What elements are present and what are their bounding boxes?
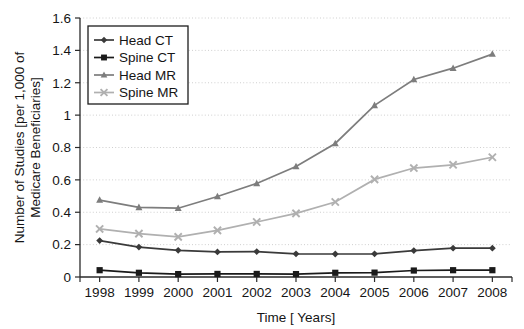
y-axis-title-line1: Number of Studies [per 1,000 of bbox=[12, 52, 27, 244]
y-tick-label: 1.2 bbox=[52, 76, 71, 91]
data-point-diamond bbox=[253, 248, 260, 255]
series-spine-ct bbox=[97, 267, 496, 277]
x-tick-label: 2007 bbox=[438, 285, 468, 300]
data-point-diamond bbox=[450, 245, 457, 252]
x-tick-label: 2006 bbox=[399, 285, 429, 300]
data-point-triangle bbox=[489, 50, 496, 57]
data-point-square bbox=[175, 271, 181, 277]
x-tick-label: 2001 bbox=[202, 285, 232, 300]
data-point-triangle bbox=[96, 196, 103, 203]
y-tick-label: 0.2 bbox=[52, 237, 71, 252]
data-point-square bbox=[101, 55, 107, 61]
y-tick-label: 1.6 bbox=[52, 11, 71, 26]
x-tick-label: 1999 bbox=[124, 285, 154, 300]
data-point-square bbox=[97, 267, 103, 273]
data-point-square bbox=[254, 271, 260, 277]
x-axis-ticks: 1998199920002001200220032004200520062007… bbox=[80, 277, 512, 300]
data-point-diamond bbox=[214, 249, 221, 256]
x-tick-label: 2005 bbox=[360, 285, 390, 300]
data-point-diamond bbox=[410, 247, 417, 254]
data-point-square bbox=[489, 267, 495, 273]
legend-label: Spine CT bbox=[119, 50, 175, 65]
y-tick-label: 1 bbox=[63, 108, 71, 123]
data-point-diamond bbox=[332, 251, 339, 258]
data-point-diamond bbox=[489, 245, 496, 252]
data-point-square bbox=[450, 267, 456, 273]
y-tick-label: 0.8 bbox=[52, 140, 71, 155]
x-axis-title: Time [ Years] bbox=[257, 310, 335, 325]
x-tick-label: 2002 bbox=[242, 285, 272, 300]
legend-label: Head MR bbox=[119, 68, 176, 83]
data-point-diamond bbox=[96, 237, 103, 244]
chart-legend: Head CTSpine CTHead MRSpine MR bbox=[88, 26, 188, 104]
x-tick-label: 1998 bbox=[85, 285, 115, 300]
line-chart: 00.20.40.60.811.21.41.6 1998199920002001… bbox=[0, 0, 524, 329]
legend-label: Spine MR bbox=[119, 85, 179, 100]
data-point-diamond bbox=[371, 250, 378, 257]
y-axis-title-line2: Medicare Beneficiaries] bbox=[28, 77, 43, 217]
y-tick-label: 0.4 bbox=[52, 205, 71, 220]
x-tick-label: 2003 bbox=[281, 285, 311, 300]
data-point-diamond bbox=[293, 250, 300, 257]
data-point-diamond bbox=[175, 247, 182, 254]
series-head-ct bbox=[96, 237, 496, 257]
data-point-square bbox=[332, 270, 338, 276]
data-point-triangle bbox=[371, 102, 378, 109]
legend-label: Head CT bbox=[119, 33, 173, 48]
data-point-square bbox=[371, 270, 377, 276]
x-tick-label: 2008 bbox=[477, 285, 507, 300]
y-axis-ticks: 00.20.40.60.811.21.41.6 bbox=[52, 11, 80, 285]
y-tick-label: 0.6 bbox=[52, 173, 71, 188]
x-tick-label: 2000 bbox=[163, 285, 193, 300]
y-tick-label: 1.4 bbox=[52, 43, 71, 58]
chart-figure: 00.20.40.60.811.21.41.6 1998199920002001… bbox=[0, 0, 524, 329]
data-point-square bbox=[214, 271, 220, 277]
data-point-square bbox=[293, 271, 299, 277]
x-tick-label: 2004 bbox=[320, 285, 351, 300]
data-point-square bbox=[411, 267, 417, 273]
data-point-square bbox=[136, 270, 142, 276]
y-axis-title: Number of Studies [per 1,000 ofMedicare … bbox=[12, 52, 43, 244]
y-tick-label: 0 bbox=[63, 270, 71, 285]
